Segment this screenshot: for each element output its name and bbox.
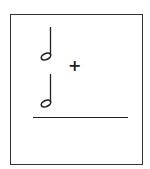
worksheet-card bbox=[10, 14, 143, 165]
half-note-icon bbox=[36, 25, 56, 63]
plus-operator: + bbox=[68, 58, 81, 74]
sum-line bbox=[33, 117, 128, 118]
half-note-icon bbox=[36, 72, 56, 110]
